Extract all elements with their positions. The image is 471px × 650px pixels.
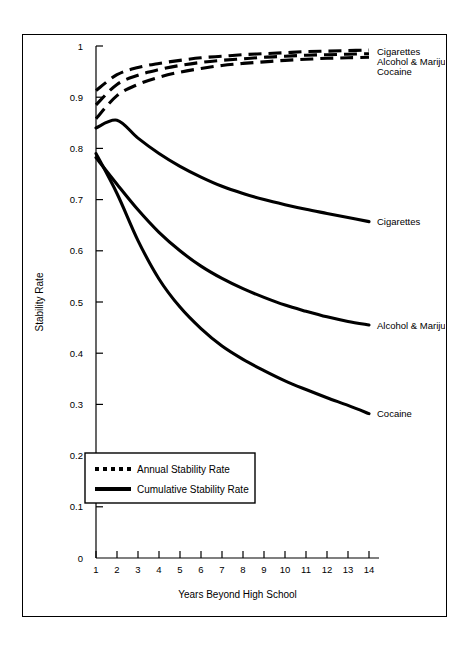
x-tick-label-13: 13 — [343, 564, 354, 575]
x-tick-label-10: 10 — [280, 564, 291, 575]
curve-annual-stability-rate-alcohol-marijuana — [96, 54, 369, 105]
series-end-label-cumulative-stability-rate-alcohol-marijuana: Alcohol & Marijuana — [377, 320, 445, 331]
x-tick-label-14: 14 — [364, 564, 375, 575]
legend-box — [85, 453, 255, 503]
y-tick-label-0: 0 — [78, 553, 83, 564]
x-tick-label-11: 11 — [301, 564, 311, 575]
series-end-label-annual-stability-rate-cocaine: Cocaine — [377, 66, 412, 77]
x-tick-label-5: 5 — [177, 564, 182, 575]
y-tick-label-0.6: 0.6 — [70, 245, 83, 256]
y-tick-label-0.7: 0.7 — [70, 194, 83, 205]
series-end-label-cumulative-stability-rate-cocaine: Cocaine — [377, 408, 412, 419]
y-tick-label-1: 1 — [78, 41, 83, 52]
legend-label-annual: Annual Stability Rate — [137, 464, 230, 475]
y-tick-label-0.3: 0.3 — [70, 399, 83, 410]
series-end-labels: CigarettesAlcohol & MarijuanaCocaineCiga… — [377, 46, 445, 419]
series-end-label-cumulative-stability-rate-cigarettes: Cigarettes — [377, 216, 421, 227]
y-tick-label-0.8: 0.8 — [70, 143, 83, 154]
y-tick-label-0.9: 0.9 — [70, 92, 83, 103]
y-tick-label-0.5: 0.5 — [70, 297, 83, 308]
legend-label-cumulative: Cumulative Stability Rate — [137, 484, 249, 495]
y-tick-label-0.4: 0.4 — [70, 348, 83, 359]
x-tick-label-6: 6 — [198, 564, 203, 575]
chart-legend: Annual Stability Rate Cumulative Stabili… — [85, 453, 255, 503]
x-tick-label-7: 7 — [219, 564, 224, 575]
x-axis-title: Years Beyond High School — [178, 589, 297, 600]
x-tick-label-2: 2 — [114, 564, 119, 575]
figure-frame: 00.10.20.30.40.50.60.70.80.91 1234567891… — [22, 34, 447, 617]
x-tick-label-1: 1 — [93, 564, 98, 575]
x-tick-label-3: 3 — [135, 564, 140, 575]
y-tick-label-0.1: 0.1 — [70, 501, 83, 512]
chart-series-curves — [96, 50, 369, 414]
y-axis-title: Stability Rate — [34, 272, 45, 331]
x-axis-ticks: 1234567891011121314 — [93, 551, 374, 575]
x-tick-label-9: 9 — [261, 564, 266, 575]
x-tick-label-8: 8 — [240, 564, 245, 575]
x-tick-label-12: 12 — [322, 564, 333, 575]
y-tick-label-0.2: 0.2 — [70, 450, 83, 461]
stability-rate-chart: 00.10.20.30.40.50.60.70.80.91 1234567891… — [23, 35, 445, 615]
x-tick-label-4: 4 — [156, 564, 161, 575]
